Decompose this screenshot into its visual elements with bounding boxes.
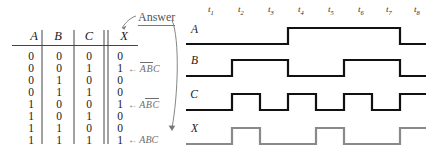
- cell-a: 0: [24, 62, 38, 74]
- cell-x: 1: [113, 62, 127, 74]
- minterm-note-4: ← ABC: [128, 98, 159, 110]
- note-arrow-icon: ←: [128, 63, 137, 74]
- cell-a: 1: [24, 98, 38, 110]
- column-header-x: X: [116, 28, 132, 44]
- cell-x: 0: [113, 86, 127, 98]
- note-arrow-icon: ←: [128, 99, 137, 110]
- column-header-c: C: [81, 28, 97, 44]
- cell-a: 0: [24, 74, 38, 86]
- minterm-literal: A: [140, 62, 147, 74]
- cell-x: 0: [113, 122, 127, 134]
- minterm-literal: B: [146, 62, 153, 74]
- cell-b: 0: [52, 110, 66, 122]
- cell-c: 0: [82, 50, 96, 62]
- cell-c: 1: [82, 62, 96, 74]
- cell-a: 1: [24, 134, 38, 146]
- cell-b: 0: [52, 98, 66, 110]
- cell-c: 0: [82, 98, 96, 110]
- note-arrow-icon: ←: [128, 134, 137, 145]
- cell-b: 1: [52, 134, 66, 146]
- minterm-literal: C: [153, 63, 160, 74]
- cell-b: 1: [52, 122, 66, 134]
- waveform-b: [186, 60, 426, 76]
- cell-c: 1: [82, 110, 96, 122]
- cell-x: 1: [113, 98, 127, 110]
- waveform-canvas: [186, 2, 426, 154]
- cell-c: 0: [82, 74, 96, 86]
- column-header-b: B: [50, 28, 66, 44]
- cell-c: 0: [82, 122, 96, 134]
- waveform-a: [186, 28, 426, 44]
- cell-x: 0: [113, 50, 127, 62]
- waveform-c: [186, 94, 426, 110]
- cell-b: 0: [52, 62, 66, 74]
- cell-b: 1: [52, 86, 66, 98]
- minterm-literal: C: [152, 98, 159, 110]
- cell-b: 0: [52, 50, 66, 62]
- figure-root: A B C X 0 0 0 0 0 0 1 1 ← ABC 0 1 0 0 0 …: [0, 0, 429, 156]
- cell-a: 1: [24, 122, 38, 134]
- answer-callout-label: Answer: [138, 10, 175, 26]
- cell-a: 0: [24, 50, 38, 62]
- waveform-x: [186, 128, 426, 144]
- truth-table: A B C X 0 0 0 0 0 0 1 1 ← ABC 0 1 0 0 0 …: [12, 28, 182, 148]
- cell-c: 1: [82, 86, 96, 98]
- timing-diagram: t1 t2 t3 t4 t5 t6 t7 t8 A B C X: [186, 2, 426, 154]
- minterm-note-7: ← ABC: [128, 134, 158, 146]
- cell-c: 1: [82, 134, 96, 146]
- minterm-note-1: ← ABC: [128, 62, 160, 74]
- cell-a: 1: [24, 110, 38, 122]
- minterm-literal: C: [152, 134, 159, 145]
- cell-x: 1: [113, 134, 127, 146]
- cell-b: 1: [52, 74, 66, 86]
- cell-x: 0: [113, 74, 127, 86]
- cell-a: 0: [24, 86, 38, 98]
- minterm-literal: B: [145, 98, 152, 110]
- column-header-a: A: [26, 28, 42, 44]
- cell-x: 0: [113, 110, 127, 122]
